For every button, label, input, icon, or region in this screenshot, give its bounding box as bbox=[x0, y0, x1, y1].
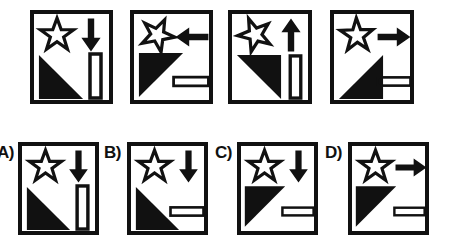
star-outline bbox=[339, 17, 377, 53]
rectangle-vertical bbox=[288, 54, 303, 100]
rectangle-vertical bbox=[88, 52, 103, 100]
star-outline bbox=[357, 148, 394, 183]
option-c-label: C) bbox=[215, 143, 232, 163]
option-a-label: A) bbox=[0, 143, 14, 163]
rectangle-horizontal bbox=[393, 204, 426, 219]
puzzle-canvas: A) B) bbox=[0, 0, 451, 242]
triangle-right-angle-top-left bbox=[25, 186, 72, 231]
triangle-right-angle-top-left-narrow bbox=[244, 182, 286, 231]
star-outline bbox=[27, 148, 64, 183]
arrow-right-icon bbox=[394, 155, 428, 180]
arrow-left-icon bbox=[174, 24, 210, 50]
arrow-right-icon bbox=[376, 24, 412, 50]
star-outline bbox=[246, 148, 283, 183]
rectangle-horizontal bbox=[169, 204, 205, 219]
sequence-panel-2[interactable] bbox=[130, 10, 213, 104]
star-outline bbox=[237, 16, 275, 52]
rectangle-horizontal bbox=[376, 74, 412, 89]
option-c[interactable] bbox=[237, 142, 318, 235]
star-outline bbox=[136, 148, 173, 183]
sequence-panel-1[interactable] bbox=[30, 10, 113, 104]
option-a[interactable] bbox=[18, 142, 99, 235]
option-b-label: B) bbox=[104, 143, 121, 163]
sequence-panel-3[interactable] bbox=[228, 10, 312, 104]
option-d-label: D) bbox=[325, 143, 342, 163]
arrow-up-icon bbox=[278, 17, 304, 53]
star-outline bbox=[139, 16, 177, 52]
triangle-right-angle-top-right bbox=[235, 54, 283, 100]
option-d[interactable] bbox=[348, 142, 429, 235]
arrow-down-icon bbox=[286, 149, 311, 184]
option-b[interactable] bbox=[127, 142, 208, 235]
arrow-down-icon bbox=[66, 149, 91, 184]
sequence-panel-4[interactable] bbox=[330, 10, 414, 104]
triangle-right-angle-top-left-narrow bbox=[355, 182, 397, 231]
rectangle-horizontal bbox=[172, 74, 210, 89]
rectangle-vertical bbox=[75, 184, 90, 231]
triangle-right-angle-top-left bbox=[37, 54, 85, 100]
arrow-down-icon bbox=[78, 17, 104, 53]
rectangle-horizontal bbox=[281, 204, 315, 219]
arrow-down-icon bbox=[176, 149, 201, 184]
star-outline bbox=[38, 16, 76, 52]
